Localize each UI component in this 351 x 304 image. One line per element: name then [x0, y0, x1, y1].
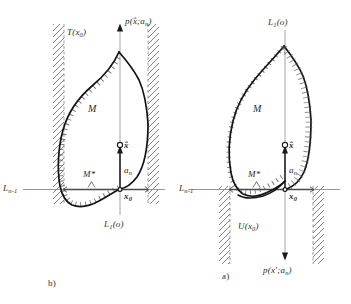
left-panel-vertical-axis-label: L1(o) — [104, 220, 124, 231]
right-panel-wall-right — [313, 186, 324, 264]
left-panel-set-label: M — [88, 104, 97, 114]
right-panel-point-x0 — [283, 188, 287, 192]
left-panel-x0-label: x0 — [124, 192, 132, 203]
right-panel-set-label: M — [253, 104, 262, 114]
left-panel-set-boundary — [58, 52, 148, 206]
right-panel-upper-set-label: U(x0) — [238, 222, 259, 233]
left-panel-point-xhat — [117, 142, 122, 147]
left-panel-xhat-label: x̂ — [124, 141, 129, 150]
left-panel-wall-right — [148, 24, 159, 204]
left-panel-horizontal-axis — [23, 187, 165, 193]
left-panel-point-x0 — [118, 188, 122, 192]
right-panel-x0-label: x0 — [289, 192, 297, 203]
right-panel-vertical-axis-label: L1(o) — [268, 18, 288, 29]
left-panel-tangent-cone-label: T(x0) — [67, 28, 86, 39]
right-panel-downward-arrow — [282, 190, 288, 261]
right-panel-point-xhat — [282, 142, 287, 147]
right-panel-mstar-label: M* — [248, 170, 260, 179]
left-panel-mstar-pointer — [88, 182, 95, 188]
left-panel-horizontal-axis-label: Ln-1 — [3, 184, 17, 195]
right-panel-direction-label: an — [289, 166, 297, 177]
left-panel-set-hatching — [58, 52, 120, 206]
right-panel-xhat-label: x̂ — [289, 141, 294, 150]
left-panel-caption: b) — [48, 279, 56, 288]
left-panel-mstar-label: M* — [83, 170, 95, 179]
left-panel-direction-label: an — [124, 166, 132, 177]
right-panel-support-function-label: p(x';an) — [263, 266, 292, 277]
left-panel-direction-arrow — [117, 146, 123, 190]
left-panel-support-function-label: p(x̂;an) — [125, 17, 152, 28]
right-panel-caption: a) — [222, 272, 229, 281]
right-panel-mstar-pointer — [253, 182, 260, 188]
right-panel-horizontal-axis-label: Ln-1 — [179, 184, 193, 195]
figure-canvas — [0, 0, 351, 304]
right-panel-wall-left — [219, 186, 230, 264]
